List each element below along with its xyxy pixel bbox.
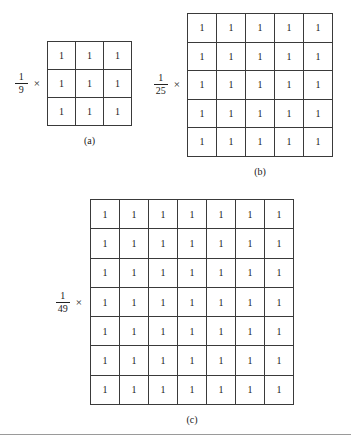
- fraction-denominator-b: 25: [154, 85, 168, 96]
- multiply-icon-b: ×: [174, 79, 180, 90]
- kernel-cell: 1: [217, 71, 246, 100]
- kernel-row-a: 1 9 × 1 1 1 1 1 1 1 1 1: [10, 41, 132, 126]
- fraction-numerator-c: 1: [58, 291, 67, 302]
- kernel-panel-a: 1 9 × 1 1 1 1 1 1 1 1 1 (a): [10, 41, 132, 146]
- kernel-cell: 1: [207, 288, 236, 317]
- kernel-cell: 1: [48, 70, 76, 98]
- kernel-cell: 1: [188, 71, 217, 100]
- kernel-cell: 1: [178, 317, 207, 346]
- kernel-cell: 1: [120, 200, 149, 229]
- kernel-cell: 1: [91, 288, 120, 317]
- kernel-cell: 1: [304, 128, 333, 157]
- kernel-cell: 1: [236, 346, 265, 375]
- kernel-cell: 1: [246, 43, 275, 72]
- kernel-cell: 1: [149, 376, 178, 405]
- kernel-cell: 1: [304, 71, 333, 100]
- kernel-cell: 1: [246, 128, 275, 157]
- kernel-cell: 1: [91, 229, 120, 258]
- kernel-cell: 1: [76, 42, 104, 70]
- kernel-cell: 1: [236, 259, 265, 288]
- kernel-cell: 1: [178, 259, 207, 288]
- kernel-cell: 1: [265, 317, 294, 346]
- kernel-cell: 1: [178, 229, 207, 258]
- kernel-cell: 1: [217, 128, 246, 157]
- kernel-cell: 1: [104, 42, 132, 70]
- fraction-c: 1 49: [56, 291, 70, 314]
- kernel-cell: 1: [275, 128, 304, 157]
- kernel-cell: 1: [236, 288, 265, 317]
- kernel-cell: 1: [265, 376, 294, 405]
- kernel-cell: 1: [304, 100, 333, 129]
- kernel-cell: 1: [246, 71, 275, 100]
- kernel-cell: 1: [76, 98, 104, 126]
- kernel-cell: 1: [236, 376, 265, 405]
- kernel-cell: 1: [149, 259, 178, 288]
- kernel-cell: 1: [120, 317, 149, 346]
- kernel-cell: 1: [207, 229, 236, 258]
- kernel-cell: 1: [304, 14, 333, 43]
- kernel-cell: 1: [149, 317, 178, 346]
- kernel-cell: 1: [91, 346, 120, 375]
- kernel-grid-a: 1 1 1 1 1 1 1 1 1: [47, 41, 132, 126]
- kernel-cell: 1: [207, 259, 236, 288]
- multiply-icon-a: ×: [34, 78, 40, 89]
- page-divider-rule: [0, 434, 351, 435]
- kernel-panel-c: 1 49 × 1 1 1 1 1 1 1 1 1 1 1 1 1 1: [50, 199, 294, 425]
- kernel-cell: 1: [236, 229, 265, 258]
- kernel-cell: 1: [91, 200, 120, 229]
- kernel-cell: 1: [188, 14, 217, 43]
- kernel-cell: 1: [217, 43, 246, 72]
- kernel-row-c: 1 49 × 1 1 1 1 1 1 1 1 1 1 1 1 1 1: [50, 199, 294, 405]
- kernel-cell: 1: [207, 346, 236, 375]
- kernel-cell: 1: [91, 317, 120, 346]
- kernel-cell: 1: [207, 376, 236, 405]
- multiply-icon-c: ×: [76, 297, 82, 308]
- kernel-cell: 1: [104, 98, 132, 126]
- kernel-cell: 1: [246, 14, 275, 43]
- kernel-cell: 1: [120, 288, 149, 317]
- kernel-cell: 1: [120, 346, 149, 375]
- kernel-cell: 1: [188, 100, 217, 129]
- kernel-cell: 1: [91, 376, 120, 405]
- kernel-panel-b: 1 25 × 1 1 1 1 1 1 1 1 1 1 1 1 1 1: [148, 13, 333, 177]
- kernel-cell: 1: [217, 100, 246, 129]
- kernel-cell: 1: [149, 288, 178, 317]
- fraction-denominator-a: 9: [17, 84, 26, 95]
- kernel-cell: 1: [120, 376, 149, 405]
- kernel-cell: 1: [265, 346, 294, 375]
- kernel-cell: 1: [48, 98, 76, 126]
- kernel-cell: 1: [76, 70, 104, 98]
- figure-root: 1 9 × 1 1 1 1 1 1 1 1 1 (a): [0, 0, 351, 445]
- kernel-cell: 1: [236, 317, 265, 346]
- kernel-cell: 1: [265, 229, 294, 258]
- fraction-denominator-c: 49: [56, 303, 70, 314]
- kernel-cell: 1: [217, 14, 246, 43]
- panel-caption-b: (b): [254, 166, 266, 177]
- kernel-cell: 1: [207, 317, 236, 346]
- fraction-a: 1 9: [15, 72, 28, 95]
- scalar-multiplier-c: 1 49 ×: [50, 291, 82, 314]
- kernel-grid-c: 1 1 1 1 1 1 1 1 1 1 1 1 1 1 1 1 1 1 1 1: [90, 199, 294, 405]
- kernel-cell: 1: [275, 14, 304, 43]
- kernel-cell: 1: [188, 43, 217, 72]
- scalar-multiplier-a: 1 9 ×: [10, 72, 40, 95]
- kernel-cell: 1: [120, 259, 149, 288]
- panel-caption-a: (a): [84, 135, 95, 146]
- kernel-cell: 1: [149, 200, 178, 229]
- kernel-cell: 1: [188, 128, 217, 157]
- kernel-grid-b: 1 1 1 1 1 1 1 1 1 1 1 1 1 1 1 1 1 1 1 1: [187, 13, 333, 157]
- fraction-numerator-b: 1: [156, 73, 165, 84]
- kernel-cell: 1: [48, 42, 76, 70]
- kernel-cell: 1: [207, 200, 236, 229]
- kernel-cell: 1: [265, 288, 294, 317]
- kernel-cell: 1: [120, 229, 149, 258]
- kernel-cell: 1: [178, 200, 207, 229]
- kernel-cell: 1: [275, 71, 304, 100]
- fraction-b: 1 25: [154, 73, 168, 96]
- kernel-cell: 1: [236, 200, 265, 229]
- kernel-cell: 1: [304, 43, 333, 72]
- kernel-cell: 1: [149, 346, 178, 375]
- kernel-cell: 1: [178, 346, 207, 375]
- kernel-cell: 1: [104, 70, 132, 98]
- kernel-cell: 1: [275, 43, 304, 72]
